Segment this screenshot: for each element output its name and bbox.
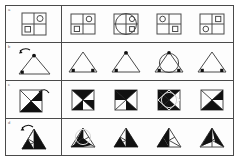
option-b4[interactable] [194,43,230,80]
question-cell-b [6,43,62,80]
puzzle-row-d: d [6,119,233,155]
option-b2[interactable] [108,43,144,80]
question-figure-a [10,7,58,41]
puzzle-row-a: a [6,6,233,43]
option-b3[interactable] [151,43,187,80]
worksheet-page: a [0,0,241,162]
puzzle-row-b: b [6,43,233,81]
options-c [62,81,233,118]
option-b1[interactable] [65,43,101,80]
option-d1[interactable] [65,119,101,155]
option-d3[interactable] [151,119,187,155]
options-d [62,119,233,155]
options-a [62,6,233,42]
option-c2[interactable] [108,81,144,118]
option-a2[interactable] [108,6,144,42]
option-a1[interactable] [65,6,101,42]
puzzle-row-c: c [6,81,233,119]
option-d2[interactable] [108,119,144,155]
option-d4[interactable] [194,119,230,155]
option-a3[interactable] [151,6,187,42]
question-cell-a [6,6,62,42]
option-c1[interactable] [65,81,101,118]
option-c4[interactable] [194,81,230,118]
question-figure-d [10,120,58,154]
question-figure-c [10,83,58,117]
option-a4[interactable] [194,6,230,42]
worksheet-frame: a [5,5,234,156]
question-cell-d [6,119,62,155]
option-c3[interactable] [151,81,187,118]
question-cell-c [6,81,62,118]
question-figure-b [10,45,58,79]
options-b [62,43,233,80]
